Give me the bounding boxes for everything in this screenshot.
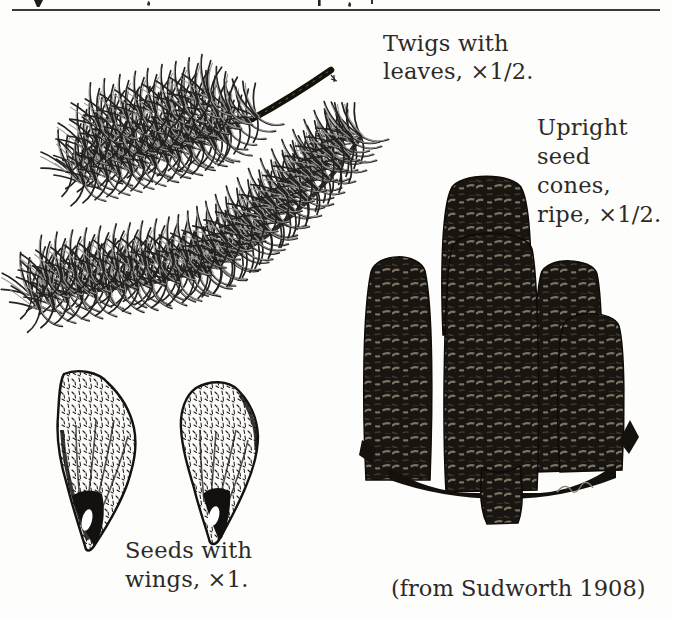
upper-twig-needles: [84, 142, 228, 184]
seeds-caption-line-2: wings, ×1.: [125, 565, 252, 594]
cones-caption: Upright seed cones, ripe, ×1/2.: [537, 113, 661, 229]
twigs-caption: Twigs with leaves, ×1/2.: [383, 29, 534, 85]
upper-twig-needles: [72, 117, 257, 173]
twigs-caption-line-2: leaves, ×1/2.: [383, 57, 534, 85]
winged-seed-right: [181, 382, 258, 544]
horizontal-rule: [12, 9, 660, 11]
upper-twig-needles: [100, 99, 210, 127]
source-credit: (from Sudworth 1908): [391, 575, 646, 601]
cone-left: [364, 257, 432, 480]
winged-seed-left: [57, 371, 135, 550]
cones-caption-line-1: Upright: [537, 113, 661, 142]
lower-twig-needles: [48, 137, 352, 280]
cones-caption-line-2: seed: [537, 142, 661, 171]
cone-front-center: [444, 233, 539, 492]
twig-stem-lower: [34, 138, 360, 295]
cone-front-right: [558, 314, 624, 472]
lower-twig-needles: [40, 157, 349, 310]
seeds-caption-line-1: Seeds with: [125, 536, 252, 565]
twig-stem-upper: [250, 70, 331, 120]
twig-bud-icon: [331, 75, 337, 82]
twigs-caption-line-1: Twigs with: [383, 29, 534, 57]
upper-twig-needles: [86, 110, 229, 148]
cones-caption-line-3: cones,: [537, 171, 661, 200]
book-page: Twigs with leaves, ×1/2. Upright seed co…: [0, 0, 673, 618]
branch-stem: [481, 466, 522, 524]
seeds-caption: Seeds with wings, ×1.: [125, 536, 252, 594]
winged-seeds-illustration: [40, 358, 270, 558]
cones-caption-line-4: ripe, ×1/2.: [537, 200, 661, 229]
